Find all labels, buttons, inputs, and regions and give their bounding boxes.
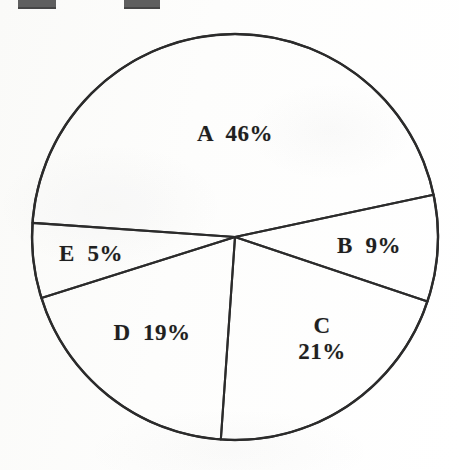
pie-slice-label-e: E 5% [59, 241, 123, 267]
pie-slice-label-a-line-1: A 46% [197, 121, 273, 147]
pie-slice-label-c-line-2: 21% [298, 339, 346, 365]
pie-chart-page: A 46%B 9%C21%D 19%E 5% [0, 0, 459, 470]
pie-slice-label-b-line-1: B 9% [337, 233, 401, 259]
pie-slice-label-c-line-1: C [298, 313, 346, 339]
pie-slice-label-d-line-1: D 19% [113, 320, 190, 346]
pie-slice-label-e-line-1: E 5% [59, 241, 123, 267]
pie-slice-label-d: D 19% [113, 320, 190, 346]
pie-slice-label-a: A 46% [197, 121, 273, 147]
pie-slice-label-c: C21% [298, 313, 346, 365]
pie-slice-label-b: B 9% [337, 233, 401, 259]
